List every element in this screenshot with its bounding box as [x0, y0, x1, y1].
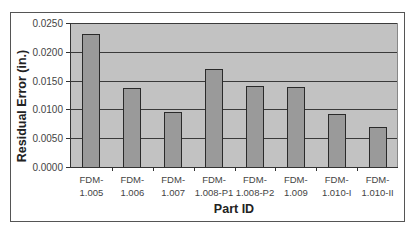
y-tick-label: 0.0100: [19, 104, 63, 115]
bar: [82, 34, 100, 167]
x-category-label: FDM-1.005: [69, 173, 113, 199]
y-tick-mark: [66, 23, 71, 24]
x-axis-title: Part ID: [214, 202, 254, 216]
x-tick-mark: [153, 167, 154, 171]
x-category-label: FDM-1.008-P2: [233, 173, 277, 199]
y-tick-label: 0.0000: [19, 162, 63, 173]
y-tick-mark: [66, 52, 71, 53]
bar: [205, 69, 223, 167]
gridline: [71, 109, 397, 110]
x-tick-mark: [357, 167, 358, 171]
bar: [287, 87, 305, 167]
y-axis-line: [70, 23, 71, 168]
y-tick-mark: [66, 167, 71, 168]
x-tick-mark: [235, 167, 236, 171]
gridline: [71, 81, 397, 82]
y-tick-mark: [66, 109, 71, 110]
bar: [123, 88, 141, 167]
x-tick-mark: [316, 167, 317, 171]
bar: [369, 127, 387, 167]
y-tick-label: 0.0200: [19, 46, 63, 57]
bar: [328, 114, 346, 167]
x-tick-mark: [194, 167, 195, 171]
gridline: [71, 138, 397, 139]
x-tick-mark: [275, 167, 276, 171]
y-tick-label: 0.0150: [19, 75, 63, 86]
x-category-label: FDM-1.006: [110, 173, 154, 199]
x-category-label: FDM-1.010-II: [356, 173, 400, 199]
y-tick-mark: [66, 81, 71, 82]
y-tick-label: 0.0050: [19, 133, 63, 144]
bar: [246, 86, 264, 167]
x-tick-mark: [112, 167, 113, 171]
y-tick-label: 0.0250: [19, 18, 63, 29]
bar: [164, 112, 182, 167]
gridline: [71, 52, 397, 53]
x-category-label: FDM-1.007: [151, 173, 195, 199]
x-category-label: FDM-1.010-I: [315, 173, 359, 199]
plot-area: [71, 23, 398, 167]
gridline: [71, 23, 397, 24]
y-tick-mark: [66, 138, 71, 139]
x-category-label: FDM-1.008-P1: [192, 173, 236, 199]
x-category-label: FDM-1.009: [274, 173, 318, 199]
